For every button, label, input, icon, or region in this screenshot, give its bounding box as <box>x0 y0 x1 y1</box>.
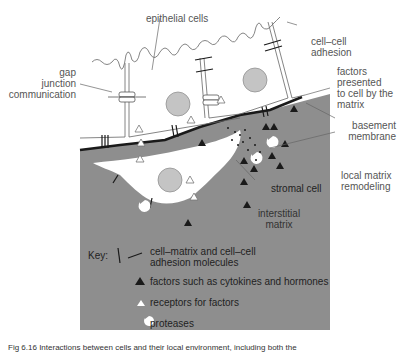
label-factors-presented: factors presented to cell by the matrix <box>337 66 393 110</box>
figure-caption: Fig 6.16 Interactions between cells and … <box>8 343 297 352</box>
key-title: Key: <box>88 250 108 261</box>
epithelial-nucleus <box>166 92 190 116</box>
label-gap-junction: gap junction communication <box>8 67 76 100</box>
key-item-adhesion: cell–matrix and cell–cell adhesion molec… <box>150 246 256 268</box>
label-cell-cell-adhesion: cell–cell adhesion <box>311 36 352 58</box>
key-item-proteases: proteases <box>150 318 194 329</box>
key-item-factors: factors such as cytokines and hormones <box>150 276 328 287</box>
stromal-nucleus <box>158 168 182 192</box>
label-interstitial-matrix: interstitial matrix <box>244 208 314 230</box>
epithelial-nucleus <box>243 68 267 92</box>
label-local-matrix-remodeling: local matrix remodeling <box>341 170 392 192</box>
label-stromal-cell: stromal cell <box>271 183 322 194</box>
label-basement-membrane: basement membrane <box>340 120 396 142</box>
key-item-receptors: receptors for factors <box>150 297 239 308</box>
label-epithelial-cells: epithelial cells <box>146 13 208 24</box>
